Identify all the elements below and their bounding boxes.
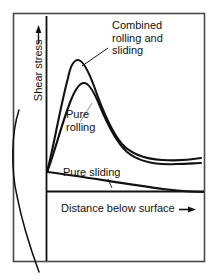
x-axis-label: Distance below surface [61, 202, 175, 215]
contact-body-arc [13, 110, 39, 272]
leader-line-combined [82, 48, 108, 66]
curve-label-combined-line-3: sliding [112, 44, 143, 56]
curve-label-combined-line-1: Combined [112, 19, 162, 31]
curve-label-pure-rolling-line-2: rolling [66, 121, 95, 133]
curve-label-pure-sliding: Pure sliding [63, 166, 120, 179]
shear-stress-figure: Shear stress Combinedrolling andsliding … [0, 0, 218, 279]
curve-label-pure-rolling: Purerolling [66, 108, 95, 133]
y-axis-label: Shear stress [32, 22, 45, 118]
curve-label-combined-rolling-and-sliding: Combinedrolling andsliding [112, 19, 163, 57]
right-arrow-icon [179, 206, 196, 212]
curve-label-pure-rolling-line-1: Pure [66, 108, 89, 120]
curve-label-combined-line-2: rolling and [112, 32, 163, 44]
